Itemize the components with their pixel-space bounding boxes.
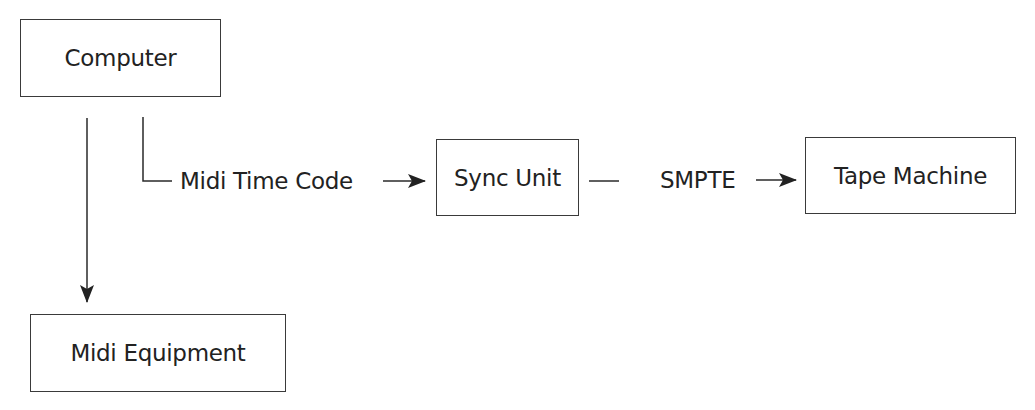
node-tape-machine-label: Tape Machine <box>834 163 987 189</box>
node-midi-equipment: Midi Equipment <box>30 314 286 392</box>
node-tape-machine: Tape Machine <box>805 137 1016 214</box>
computer-to-mtc-elbow <box>143 117 172 181</box>
edge-label-midi-time-code: Midi Time Code <box>180 170 353 193</box>
node-sync-unit: Sync Unit <box>436 139 579 216</box>
node-sync-unit-label: Sync Unit <box>454 165 561 191</box>
node-computer: Computer <box>20 19 221 97</box>
node-computer-label: Computer <box>65 45 177 71</box>
edge-label-smpte: SMPTE <box>660 169 735 192</box>
node-midi-equipment-label: Midi Equipment <box>70 340 245 366</box>
